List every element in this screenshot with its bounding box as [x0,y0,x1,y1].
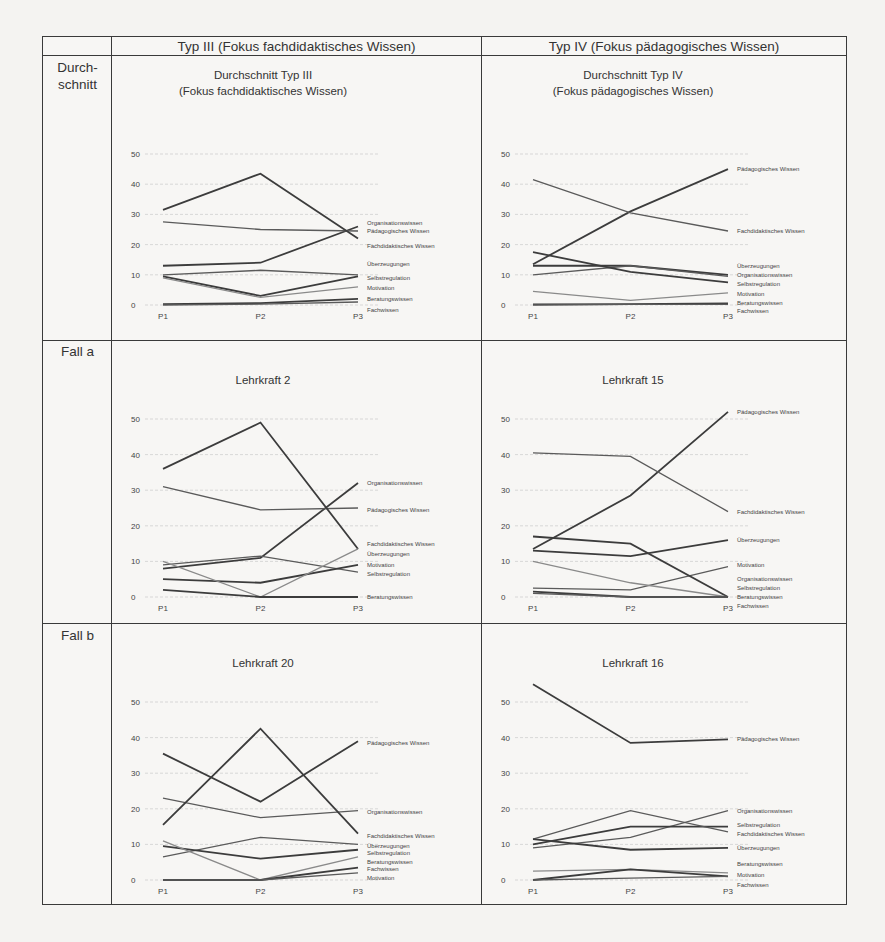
series-label: Pädagogisches Wissen [367,740,429,746]
series-label: Pädagogisches Wissen [737,736,799,742]
y-tick-label: 20 [131,241,140,250]
chart-lehrkraft-2: Lehrkraft 201020304050P1P2P3Organisation… [113,342,479,622]
x-tick-label: P2 [626,604,636,613]
y-tick-label: 0 [501,876,506,885]
series-label: Beratungswissen [737,300,783,306]
series-label: Organisationswissen [367,480,422,486]
series-line [163,174,358,239]
y-tick-label: 40 [131,180,140,189]
series-line [163,226,358,265]
y-tick-label: 40 [501,451,510,460]
series-label: Fachwissen [737,603,769,609]
series-label: Überzeugungen [367,843,410,849]
y-tick-label: 40 [501,734,510,743]
line-chart: Durchschnitt Typ IV(Fokus pädagogisches … [483,57,849,337]
comparison-table: Typ III (Fokus fachdidaktisches Wissen) … [42,36,847,905]
y-tick-label: 50 [131,698,140,707]
x-tick-label: P3 [353,887,363,896]
series-label: Fachdidaktisches Wissen [367,833,435,839]
chart-title: Durchschnitt Typ IV [583,69,683,81]
series-label: Pädagogisches Wissen [367,228,429,234]
series-label: Überzeugungen [737,537,780,543]
y-tick-label: 20 [131,805,140,814]
chart-durchschnitt-typ-iii: Durchschnitt Typ III(Fokus fachdidaktisc… [113,57,479,337]
series-line [533,811,728,839]
row-header-fall-b: Fall b [43,627,112,644]
y-tick-label: 10 [501,557,510,566]
series-label: Fachwissen [737,882,769,888]
y-tick-label: 30 [501,210,510,219]
y-tick-label: 50 [501,150,510,159]
series-label: Selbstregulation [367,275,410,281]
row-header-fall-a: Fall a [43,343,112,360]
series-label: Fachdidaktisches Wissen [737,831,805,837]
line-chart: Durchschnitt Typ III(Fokus fachdidaktisc… [113,57,479,337]
series-line [533,540,728,556]
series-label: Pädagogisches Wissen [367,507,429,513]
chart-title: Lehrkraft 2 [236,374,291,386]
series-line [533,412,728,549]
series-label: Fachdidaktisches Wissen [737,228,805,234]
x-tick-label: P2 [256,604,266,613]
x-tick-label: P1 [528,887,538,896]
y-tick-label: 30 [501,486,510,495]
chart-lehrkraft-20: Lehrkraft 2001020304050P1P2P3Pädagogisch… [113,625,479,905]
x-tick-label: P1 [158,312,168,321]
series-line [163,868,358,880]
series-label: Überzeugungen [737,845,780,851]
y-tick-label: 50 [501,415,510,424]
series-label: Beratungswissen [367,859,413,865]
x-tick-label: P3 [353,604,363,613]
y-tick-label: 0 [131,593,136,602]
y-tick-label: 20 [501,241,510,250]
y-tick-label: 0 [501,593,506,602]
y-tick-label: 40 [131,451,140,460]
series-line [163,278,358,298]
y-tick-label: 20 [501,805,510,814]
series-label: Selbstregulation [737,281,780,287]
series-label: Organisationswissen [367,220,422,226]
x-tick-label: P3 [723,887,733,896]
line-chart: Lehrkraft 2001020304050P1P2P3Pädagogisch… [113,625,479,905]
series-line [533,252,728,282]
y-tick-label: 0 [131,301,136,310]
chart-title: Lehrkraft 20 [232,657,293,669]
series-line [533,304,728,305]
y-tick-label: 10 [131,557,140,566]
column-divider [481,37,482,904]
series-line [163,837,358,857]
series-label: Selbstregulation [737,585,780,591]
series-label: Organisationswissen [737,808,792,814]
x-tick-label: P2 [256,312,266,321]
line-chart: Lehrkraft 1501020304050P1P2P3Pädagogisch… [483,342,849,622]
series-label: Fachwissen [367,866,399,872]
x-tick-label: P1 [158,604,168,613]
x-tick-label: P1 [158,887,168,896]
y-tick-label: 20 [501,522,510,531]
series-line [533,684,728,743]
y-tick-label: 30 [501,769,510,778]
y-tick-label: 10 [131,271,140,280]
y-tick-label: 30 [131,769,140,778]
y-tick-label: 0 [501,301,506,310]
series-label: Beratungswissen [737,594,783,600]
x-tick-label: P2 [626,887,636,896]
y-tick-label: 10 [131,840,140,849]
series-line [163,590,358,597]
series-label: Selbstregulation [367,571,410,577]
series-line [533,593,728,597]
series-label: Organisationswissen [367,809,422,815]
series-label: Fachdidaktisches Wissen [737,509,805,515]
line-chart: Lehrkraft 201020304050P1P2P3Organisation… [113,342,479,622]
y-tick-label: 50 [131,150,140,159]
series-label: Fachdidaktisches Wissen [367,243,435,249]
y-tick-label: 0 [131,876,136,885]
series-label: Organisationswissen [737,576,792,582]
chart-title: Lehrkraft 16 [602,657,663,669]
y-tick-label: 40 [131,734,140,743]
series-label: Pädagogisches Wissen [737,166,799,172]
series-line [163,299,358,304]
chart-lehrkraft-15: Lehrkraft 1501020304050P1P2P3Pädagogisch… [483,342,849,622]
series-line [533,453,728,512]
series-line [533,567,728,590]
